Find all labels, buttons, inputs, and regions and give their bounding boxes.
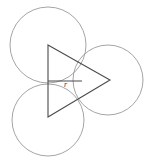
- figure-svg: r: [0, 0, 152, 161]
- geometry-figure: r: [0, 0, 152, 161]
- right-circle: [73, 45, 143, 115]
